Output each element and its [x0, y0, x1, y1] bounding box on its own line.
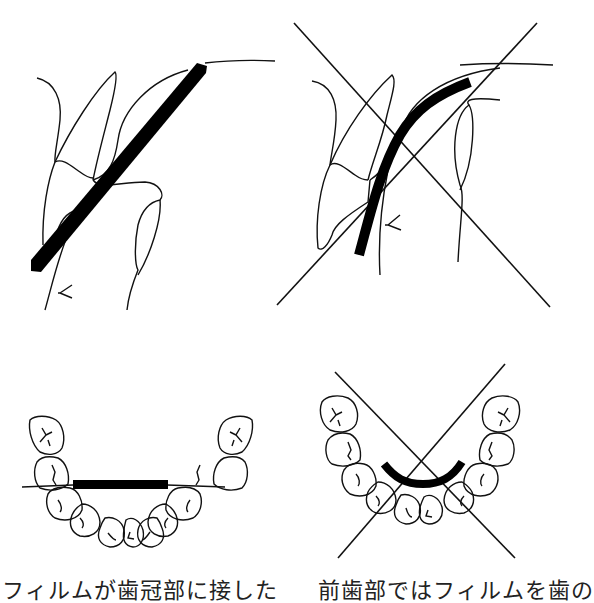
sagittal-incorrect-diagram [270, 0, 560, 320]
sagittal-correct-diagram [0, 0, 280, 320]
caption-right: 前歯部ではフィルムを歯の [318, 572, 594, 603]
arch-incorrect-diagram [290, 360, 560, 560]
caption-left: フィルムが歯冠部に接した [2, 572, 278, 603]
arch-correct-diagram [0, 370, 280, 560]
